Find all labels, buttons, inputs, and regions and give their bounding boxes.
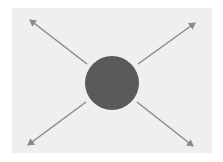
arrow-down-right-icon [137, 102, 193, 146]
arrow-up-right-icon [138, 23, 195, 64]
arrow-down-left-icon [28, 102, 86, 145]
diagram-canvas [0, 0, 223, 162]
center-circle [85, 56, 139, 110]
arrow-up-left-icon [30, 20, 87, 64]
